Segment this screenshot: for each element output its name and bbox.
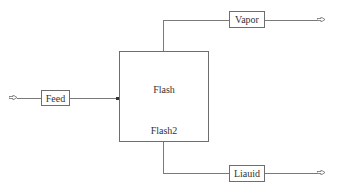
- liquid-stream-line-left[interactable]: [163, 173, 229, 174]
- feed-inlet-port-icon[interactable]: [9, 95, 17, 100]
- feed-stream-line-left[interactable]: [17, 98, 41, 99]
- feed-stream-label[interactable]: Feed: [41, 90, 70, 106]
- feed-label-text: Feed: [46, 93, 65, 104]
- vapor-stream-label[interactable]: Vapor: [229, 11, 265, 28]
- liquid-stream-line-vertical[interactable]: [163, 142, 164, 174]
- block-name: Flash: [120, 84, 208, 95]
- liquid-outlet-port-icon[interactable]: [317, 170, 325, 175]
- vapor-outlet-port-icon[interactable]: [317, 17, 325, 22]
- vapor-label-text: Vapor: [235, 14, 259, 25]
- flowsheet-canvas: Feed Flash Flash2 Vapor Liauid: [0, 0, 337, 191]
- vapor-stream-line-vertical[interactable]: [163, 20, 164, 51]
- vapor-stream-line-left[interactable]: [163, 20, 229, 21]
- feed-stream-line-right[interactable]: [70, 98, 119, 99]
- block-id: Flash2: [120, 125, 208, 136]
- flash-block[interactable]: Flash Flash2: [119, 51, 209, 142]
- liquid-label-text: Liauid: [234, 168, 260, 179]
- liquid-stream-label[interactable]: Liauid: [229, 165, 265, 182]
- liquid-stream-line-right[interactable]: [265, 173, 317, 174]
- vapor-stream-line-right[interactable]: [265, 20, 317, 21]
